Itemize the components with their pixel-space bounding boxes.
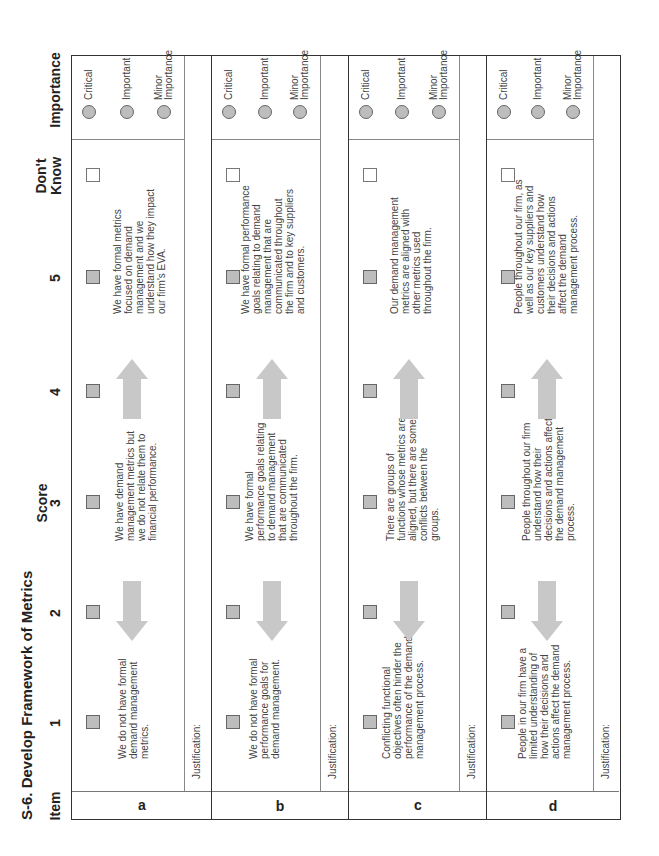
importance-divider	[212, 139, 320, 140]
importance-important[interactable]: Important	[395, 58, 409, 119]
header-importance: Importance	[48, 52, 63, 127]
item-letter-cell: d	[487, 791, 619, 819]
header-dont-know-line2: Know	[49, 157, 64, 195]
level-1-description: Conflicting functional objectives often …	[381, 634, 425, 759]
importance-critical-label: Critical	[499, 69, 509, 100]
importance-minor-label: Minor Importance	[154, 50, 174, 100]
justification-divider	[593, 56, 594, 791]
score-4-checkbox[interactable]	[86, 384, 100, 398]
dont-know-checkbox[interactable]	[86, 168, 100, 182]
importance-important[interactable]: Important	[120, 58, 134, 119]
level-5-description: Our demand management metrics are aligne…	[389, 189, 433, 314]
importance-critical[interactable]: Critical	[82, 69, 96, 119]
justification-label: Justification:	[191, 724, 202, 779]
score-4-checkbox[interactable]	[363, 384, 377, 398]
item-letter: d	[549, 798, 558, 814]
importance-critical-label: Critical	[361, 69, 371, 100]
importance-important[interactable]: Important	[531, 58, 545, 119]
level-1-description: We do not have formal performance goals …	[248, 641, 281, 759]
importance-important-label: Important	[122, 58, 132, 100]
arrow-left-icon	[531, 581, 563, 641]
score-4-checkbox[interactable]	[501, 384, 515, 398]
importance-important[interactable]: Important	[258, 58, 272, 119]
arrow-right-icon	[116, 359, 148, 419]
arrow-left-icon	[256, 581, 288, 641]
importance-divider	[349, 139, 459, 140]
page-title: S-6. Develop Framework of Metrics	[18, 571, 35, 820]
radio-important[interactable]	[120, 105, 134, 119]
item-letter: a	[138, 798, 146, 814]
item-section-b: b Justification: We do not have formal p…	[211, 56, 348, 819]
score-5-checkbox[interactable]	[86, 270, 100, 284]
item-letter-cell: c	[349, 791, 486, 819]
importance-critical[interactable]: Critical	[222, 69, 236, 119]
importance-minor[interactable]: Minor Importance	[290, 57, 310, 119]
radio-minor[interactable]	[566, 105, 580, 119]
arrow-right-icon	[393, 359, 425, 419]
importance-important-label: Important	[533, 58, 543, 100]
justification-divider	[459, 56, 460, 791]
radio-critical[interactable]	[497, 105, 511, 119]
header-score-1: 1	[48, 719, 63, 727]
score-3-checkbox[interactable]	[226, 495, 240, 509]
level-5-description: We have formal metrics focused on demand…	[112, 184, 167, 314]
radio-minor[interactable]	[157, 105, 171, 119]
radio-critical[interactable]	[222, 105, 236, 119]
justification-label: Justification:	[327, 724, 338, 779]
level-1-description: People in our firm have a limited unders…	[517, 634, 572, 759]
item-section-c: c Justification: Conflicting functional …	[348, 56, 486, 819]
score-5-checkbox[interactable]	[363, 270, 377, 284]
level-5-description: People throughout our firm, as well as o…	[513, 179, 579, 314]
importance-minor[interactable]: Minor Importance	[154, 57, 174, 119]
importance-critical[interactable]: Critical	[359, 69, 373, 119]
radio-important[interactable]	[395, 105, 409, 119]
justification-label: Justification:	[600, 724, 611, 779]
justification-divider	[320, 56, 321, 791]
level-3-description: People throughout our firm understand ho…	[521, 416, 576, 541]
level-3-description: We have formal performance goals relatin…	[244, 416, 299, 541]
score-5-checkbox[interactable]	[226, 270, 240, 284]
importance-minor-label: Minor Importance	[429, 50, 449, 100]
importance-minor-label: Minor Importance	[563, 50, 583, 100]
importance-critical-label: Critical	[224, 69, 234, 100]
importance-critical-label: Critical	[84, 69, 94, 100]
rotated-page: S-6. Develop Framework of Metrics Item S…	[0, 0, 659, 856]
radio-important[interactable]	[531, 105, 545, 119]
header-dont-know-line1: Don't	[34, 157, 49, 195]
header-item: Item	[48, 792, 63, 821]
score-1-checkbox[interactable]	[86, 715, 100, 729]
radio-minor[interactable]	[293, 105, 307, 119]
radio-critical[interactable]	[82, 105, 96, 119]
radio-critical[interactable]	[359, 105, 373, 119]
score-2-checkbox[interactable]	[501, 605, 515, 619]
level-5-description: We have formal performance goals relatin…	[240, 184, 306, 314]
score-1-checkbox[interactable]	[226, 715, 240, 729]
dont-know-checkbox[interactable]	[226, 168, 240, 182]
score-2-checkbox[interactable]	[226, 605, 240, 619]
header-score-4: 4	[48, 388, 63, 396]
score-3-checkbox[interactable]	[501, 495, 515, 509]
score-1-checkbox[interactable]	[501, 715, 515, 729]
item-letter-cell: b	[212, 791, 348, 819]
radio-important[interactable]	[258, 105, 272, 119]
score-2-checkbox[interactable]	[363, 605, 377, 619]
score-1-checkbox[interactable]	[363, 715, 377, 729]
importance-critical[interactable]: Critical	[497, 69, 511, 119]
arrow-right-icon	[531, 359, 563, 419]
header-score-2: 2	[48, 609, 63, 617]
score-3-checkbox[interactable]	[86, 495, 100, 509]
level-1-description: We do not have formal demand management …	[117, 641, 150, 759]
header-score-5: 5	[48, 274, 63, 282]
assessment-table: a Justification: We do not have formal d…	[71, 55, 621, 820]
score-2-checkbox[interactable]	[86, 605, 100, 619]
importance-minor[interactable]: Minor Importance	[429, 57, 449, 119]
item-section-a: a Justification: We do not have formal d…	[72, 56, 211, 819]
header-dont-know: Don't Know	[34, 157, 64, 195]
score-3-checkbox[interactable]	[363, 495, 377, 509]
radio-minor[interactable]	[432, 105, 446, 119]
dont-know-checkbox[interactable]	[363, 168, 377, 182]
level-3-description: We have demand management metrics but we…	[114, 416, 158, 541]
importance-minor[interactable]: Minor Importance	[563, 57, 583, 119]
score-4-checkbox[interactable]	[226, 384, 240, 398]
arrow-left-icon	[116, 581, 148, 641]
